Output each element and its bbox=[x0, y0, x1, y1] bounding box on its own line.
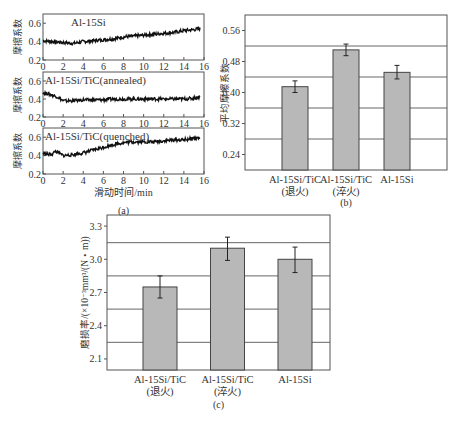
bar bbox=[333, 50, 359, 170]
y-tick-label: 3.3 bbox=[90, 221, 103, 232]
category-label: Al-15Si/TiC bbox=[134, 374, 186, 385]
x-tick-label: 12 bbox=[159, 61, 169, 72]
category-sublabel: (退火) bbox=[147, 386, 174, 398]
y-tick-label: 0.2 bbox=[29, 55, 42, 66]
x-axis-label: 滑动时间/min bbox=[94, 186, 152, 198]
y-tick-label: 2.1 bbox=[90, 353, 103, 364]
x-tick-label: 2 bbox=[61, 118, 66, 129]
x-tick-label: 14 bbox=[179, 118, 189, 129]
category-label: Al-15Si bbox=[278, 374, 311, 385]
x-tick-label: 4 bbox=[81, 61, 86, 72]
y-axis-label: 摩擦系数 bbox=[12, 19, 23, 55]
bar bbox=[211, 248, 245, 370]
y-tick-label: 0.2 bbox=[29, 112, 42, 123]
x-tick-label: 8 bbox=[121, 61, 126, 72]
figure: 0.20.40.60246810121416摩擦系数Al-15Si0.20.40… bbox=[0, 0, 460, 423]
x-tick-label: 12 bbox=[159, 175, 169, 186]
y-tick-label: 0.4 bbox=[29, 150, 42, 161]
category-label: Al-15Si bbox=[380, 174, 413, 185]
x-tick-label: 2 bbox=[61, 175, 66, 186]
y-tick-label: 2.4 bbox=[90, 320, 103, 331]
x-tick-label: 8 bbox=[121, 175, 126, 186]
bar bbox=[278, 259, 312, 370]
subplot-title: Al-15Si/TiC(quenched) bbox=[45, 130, 149, 143]
x-tick-label: 4 bbox=[81, 118, 86, 129]
bar bbox=[282, 87, 308, 170]
y-axis-label: 摩擦系数 bbox=[12, 77, 23, 113]
y-tick-label: 0.24 bbox=[223, 149, 241, 160]
y-tick-label: 0.6 bbox=[29, 132, 42, 143]
subplot-title: Al-15Si bbox=[71, 16, 106, 28]
x-tick-label: 16 bbox=[199, 61, 209, 72]
category-sublabel: (退火) bbox=[282, 186, 309, 198]
x-tick-label: 12 bbox=[159, 118, 169, 129]
subplot-title: Al-15Si/TiC(annealed) bbox=[45, 74, 146, 87]
bar bbox=[384, 72, 410, 170]
x-tick-label: 10 bbox=[139, 61, 149, 72]
x-tick-label: 0 bbox=[41, 175, 46, 186]
x-tick-label: 10 bbox=[139, 175, 149, 186]
x-tick-label: 14 bbox=[179, 175, 189, 186]
category-label: Al-15Si/TiC bbox=[269, 174, 321, 185]
y-tick-label: 0.6 bbox=[29, 18, 42, 29]
y-tick-label: 0.6 bbox=[29, 76, 42, 87]
y-tick-label: 0.4 bbox=[29, 94, 42, 105]
y-tick-label: 2.7 bbox=[90, 287, 103, 298]
subplot-a-2: 0.20.40.60246810121416摩擦系数Al-15Si/TiC(an… bbox=[12, 72, 209, 129]
y-tick-label: 0.4 bbox=[29, 36, 42, 47]
x-tick-label: 6 bbox=[101, 118, 106, 129]
x-tick-label: 8 bbox=[121, 118, 126, 129]
category-sublabel: (淬火) bbox=[214, 385, 241, 398]
x-tick-label: 0 bbox=[41, 61, 46, 72]
y-axis-label: 摩擦系数 bbox=[12, 133, 23, 169]
series-line bbox=[43, 92, 200, 103]
x-tick-label: 4 bbox=[81, 175, 86, 186]
y-tick-label: 0.56 bbox=[223, 25, 241, 36]
y-tick-label: 3.0 bbox=[90, 254, 103, 265]
y-axis-label: 平均摩擦系数 bbox=[219, 63, 230, 123]
x-tick-label: 6 bbox=[101, 175, 106, 186]
series-line bbox=[43, 28, 200, 45]
caption-c: (c) bbox=[213, 399, 224, 411]
x-tick-label: 16 bbox=[199, 118, 209, 129]
category-label: Al-15Si/TiC bbox=[320, 174, 372, 185]
chart-b: 0.240.320.400.480.56Al-15Si/TiC(退火)Al-15… bbox=[219, 15, 447, 209]
chart-c: 2.12.42.73.03.3Al-15Si/TiC(退火)Al-15Si/Ti… bbox=[79, 215, 330, 411]
y-tick-label: 0.2 bbox=[29, 169, 42, 180]
x-tick-label: 16 bbox=[199, 175, 209, 186]
caption-b: (b) bbox=[340, 197, 352, 209]
x-tick-label: 2 bbox=[61, 61, 66, 72]
x-tick-label: 14 bbox=[179, 61, 189, 72]
bar bbox=[143, 287, 177, 370]
category-label: Al-15Si/TiC bbox=[201, 374, 253, 385]
subplot-a-1: 0.20.40.60246810121416摩擦系数Al-15Si bbox=[12, 14, 209, 72]
subplot-a-3: 0.20.40.60246810121416摩擦系数Al-15Si/TiC(qu… bbox=[12, 128, 209, 186]
y-axis-label: 磨损率/(×10⁻³mm³/(N・m)) bbox=[79, 236, 91, 349]
x-tick-label: 6 bbox=[101, 61, 106, 72]
x-tick-label: 10 bbox=[139, 118, 149, 129]
x-tick-label: 0 bbox=[41, 118, 46, 129]
